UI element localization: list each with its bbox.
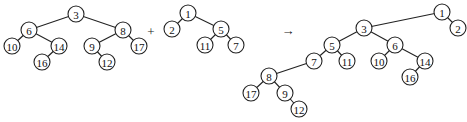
tree-node: 17 xyxy=(243,85,259,101)
node-label: 8 xyxy=(266,71,272,83)
tree-node: 16 xyxy=(402,69,418,85)
node-label: 11 xyxy=(200,40,211,52)
node-label: 2 xyxy=(169,24,175,36)
tree-node: 5 xyxy=(324,37,340,53)
node-label: 7 xyxy=(311,56,317,68)
tree-node: 3 xyxy=(356,20,372,36)
node-label: 5 xyxy=(329,40,335,52)
tree-node: 7 xyxy=(306,53,322,69)
node-label: 9 xyxy=(89,41,95,53)
tree-node: 6 xyxy=(21,22,37,38)
tree-node: 10 xyxy=(371,53,387,69)
tree-node: 10 xyxy=(4,38,20,54)
tree-node: 12 xyxy=(291,101,307,117)
heap-merge-diagram: 3681014917161212511712356711101416817912… xyxy=(0,0,467,122)
tree-node: 2 xyxy=(450,20,466,36)
tree-node: 2 xyxy=(164,21,180,37)
node-label: 14 xyxy=(420,56,432,68)
tree-node: 8 xyxy=(261,68,277,84)
node-label: 11 xyxy=(342,56,353,68)
node-label: 6 xyxy=(392,40,398,52)
node-label: 17 xyxy=(134,41,146,53)
result-arrow: → xyxy=(282,23,295,38)
tree-node: 1 xyxy=(434,4,450,20)
merged-heap: 12356711101416817912 xyxy=(243,4,466,117)
tree-node: 17 xyxy=(131,38,147,54)
node-label: 10 xyxy=(374,56,386,68)
edges-layer xyxy=(12,12,458,109)
node-label: 12 xyxy=(294,104,305,116)
tree-node: 14 xyxy=(417,53,433,69)
node-label: 7 xyxy=(233,40,239,52)
tree-node: 16 xyxy=(34,54,50,70)
tree-node: 9 xyxy=(84,38,100,54)
plus-operator: + xyxy=(147,24,154,39)
right-heap: 125117 xyxy=(164,5,244,53)
tree-node: 12 xyxy=(99,54,115,70)
node-label: 10 xyxy=(7,41,19,53)
node-label: 14 xyxy=(54,41,66,53)
node-label: 9 xyxy=(282,88,288,100)
tree-node: 5 xyxy=(213,21,229,37)
node-label: 5 xyxy=(218,24,224,36)
tree-node: 11 xyxy=(197,37,213,53)
node-label: 16 xyxy=(37,57,49,69)
tree-node: 7 xyxy=(228,37,244,53)
left-heap: 36810149171612 xyxy=(4,6,147,70)
tree-node: 3 xyxy=(68,6,84,22)
node-label: 1 xyxy=(185,8,191,20)
tree-node: 6 xyxy=(387,37,403,53)
tree-node: 9 xyxy=(277,85,293,101)
node-label: 8 xyxy=(120,25,126,37)
node-label: 17 xyxy=(246,88,258,100)
node-label: 3 xyxy=(361,23,367,35)
node-label: 12 xyxy=(102,57,113,69)
node-label: 6 xyxy=(26,25,32,37)
tree-node: 1 xyxy=(180,5,196,21)
tree-node: 14 xyxy=(51,38,67,54)
tree-edge xyxy=(364,12,442,28)
node-label: 16 xyxy=(405,72,417,84)
node-label: 3 xyxy=(73,9,79,21)
node-label: 2 xyxy=(455,23,461,35)
node-label: 1 xyxy=(439,7,445,19)
tree-node: 8 xyxy=(115,22,131,38)
tree-node: 11 xyxy=(339,53,355,69)
